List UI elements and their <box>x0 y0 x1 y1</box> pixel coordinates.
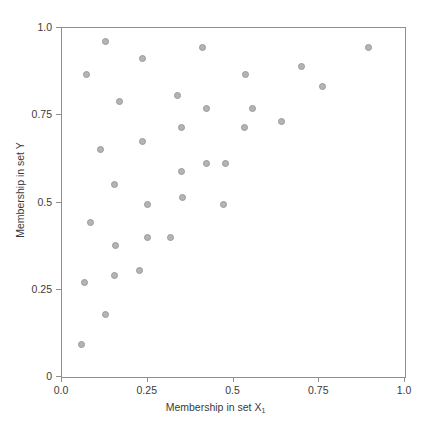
data-point <box>144 201 151 208</box>
data-point <box>199 44 206 51</box>
y-tick <box>56 202 61 203</box>
data-point <box>81 279 88 286</box>
data-point <box>139 138 146 145</box>
x-tick <box>318 377 319 382</box>
y-tick <box>56 376 61 377</box>
data-point <box>102 311 109 318</box>
data-point <box>136 267 143 274</box>
data-point <box>249 105 256 112</box>
data-point <box>167 234 174 241</box>
data-point <box>178 124 185 131</box>
data-point <box>319 83 326 90</box>
x-axis-label-subscript: 1 <box>261 407 265 414</box>
data-point <box>220 201 227 208</box>
data-point <box>111 272 118 279</box>
y-tick <box>56 289 61 290</box>
x-tick-label: 1.0 <box>397 384 412 396</box>
data-point <box>242 71 249 78</box>
y-tick <box>56 114 61 115</box>
y-tick-label: 1.0 <box>37 21 52 33</box>
data-point <box>298 63 305 70</box>
x-tick <box>61 377 62 382</box>
data-point <box>112 242 119 249</box>
data-point <box>102 38 109 45</box>
data-point <box>116 98 123 105</box>
data-point <box>178 168 185 175</box>
data-point <box>78 341 85 348</box>
x-tick-label: 0.0 <box>54 384 69 396</box>
x-tick <box>404 377 405 382</box>
data-point <box>87 219 94 226</box>
x-tick <box>147 377 148 382</box>
y-axis-label: Membership in set Y <box>14 115 26 265</box>
y-tick-label: 0.25 <box>32 283 52 295</box>
data-point <box>97 146 104 153</box>
x-axis-label-text: Membership in set X <box>166 401 262 413</box>
x-tick-label: 0.75 <box>308 384 328 396</box>
data-point <box>179 194 186 201</box>
data-point <box>278 118 285 125</box>
data-point <box>203 160 210 167</box>
x-tick <box>233 377 234 382</box>
data-point <box>203 105 210 112</box>
data-point <box>139 55 146 62</box>
data-point <box>144 234 151 241</box>
x-axis-label: Membership in set X1 <box>0 401 431 413</box>
x-tick-label: 0.5 <box>225 384 240 396</box>
data-point <box>111 181 118 188</box>
x-tick-label: 0.25 <box>137 384 157 396</box>
data-point <box>174 92 181 99</box>
y-axis-tick-labels: 00.250.50.751.0 <box>0 0 52 429</box>
data-point <box>83 71 90 78</box>
plot-area <box>61 27 406 378</box>
data-point <box>241 124 248 131</box>
data-point <box>365 44 372 51</box>
y-tick-label: 0 <box>46 370 52 382</box>
data-point <box>222 160 229 167</box>
y-tick-label: 0.75 <box>32 108 52 120</box>
y-tick <box>56 27 61 28</box>
scatter-plot-figure: 00.250.50.751.0 Membership in set X1 Mem… <box>0 0 431 429</box>
y-tick-label: 0.5 <box>37 196 52 208</box>
